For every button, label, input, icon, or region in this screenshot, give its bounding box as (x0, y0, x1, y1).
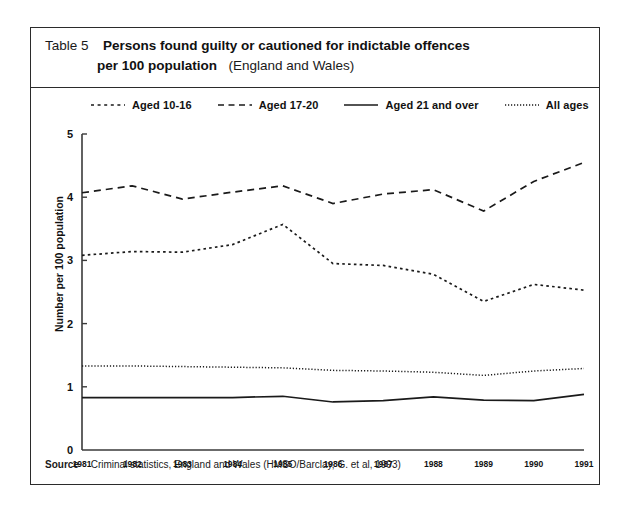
y-axis-tick-label: 3 (67, 254, 73, 266)
table-title: Table 5 Persons found guilty or cautione… (45, 36, 589, 76)
y-axis-tick-label: 5 (67, 128, 73, 140)
plot-tick-labels: 0123451981198219831984198519861987198819… (67, 128, 594, 469)
title-line-1: Table 5 Persons found guilty or cautione… (45, 36, 589, 56)
source-label: Source (45, 459, 79, 470)
x-axis-tick-label: 1990 (524, 459, 543, 469)
table-number: Table 5 (45, 38, 89, 53)
series-line-aged-17-20 (82, 162, 584, 211)
chart-page: Table 5 Persons found guilty or cautione… (0, 0, 620, 507)
title-line-2: per 100 population (England and Wales) (45, 56, 589, 76)
title-bold-line-1: Persons found guilty or cautioned for in… (103, 38, 470, 53)
chart-body: Aged 10-16 Aged 17-20 (31, 88, 599, 484)
y-axis-tick-label: 0 (67, 444, 73, 456)
series-line-aged-10-16 (82, 224, 584, 301)
title-bold-line-2: per 100 population (97, 58, 217, 73)
x-axis-tick-label: 1991 (575, 459, 594, 469)
table-frame: Table 5 Persons found guilty or cautione… (30, 27, 600, 485)
series-line-all-ages (82, 366, 584, 375)
title-region-suffix: (England and Wales) (229, 58, 355, 73)
x-axis-tick-label: 1988 (424, 459, 443, 469)
plot-series (82, 162, 584, 402)
series-line-aged-21-and-over (82, 394, 584, 402)
y-axis-tick-label: 4 (67, 191, 74, 203)
table-header-band: Table 5 Persons found guilty or cautione… (31, 28, 599, 88)
y-axis-tick-label: 1 (67, 381, 73, 393)
y-axis-tick-label: 2 (67, 318, 73, 330)
source-row: Source Criminal statistics, England and … (45, 459, 401, 470)
x-axis-tick-label: 1989 (474, 459, 493, 469)
chart-plot-area: 0123451981198219831984198519861987198819… (31, 88, 601, 486)
source-text: Criminal statistics, England and Wales (… (91, 459, 401, 470)
